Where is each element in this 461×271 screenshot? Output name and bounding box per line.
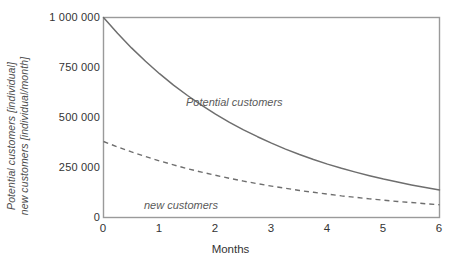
x-tick-label: 2: [200, 222, 230, 234]
x-tick-label: 0: [88, 222, 118, 234]
x-tick-label: 5: [368, 222, 398, 234]
x-tick-label: 3: [256, 222, 286, 234]
chart-container: Potential customers [individual] new cus…: [0, 0, 461, 271]
x-axis-title: Months: [0, 243, 461, 255]
x-tick-label: 6: [424, 222, 454, 234]
x-tick-label: 4: [312, 222, 342, 234]
x-axis-tick-labels: 0 1 2 3 4 5 6: [0, 0, 461, 271]
x-tick-label: 1: [144, 222, 174, 234]
